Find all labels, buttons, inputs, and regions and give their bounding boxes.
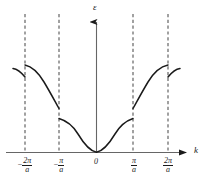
fraction-denominator: a <box>25 166 29 174</box>
band-curve-3-left-fragment <box>13 69 25 78</box>
band-structure-figure: ε k − 2π a − π a 0 π a 2π a <box>0 0 207 186</box>
axes <box>6 22 186 153</box>
fraction-minus-pi-over-a: π a <box>58 157 64 174</box>
fraction-denominator: a <box>166 166 170 174</box>
fraction-two-pi-over-a: 2π a <box>163 157 173 174</box>
band-curve-3-right-fragment <box>168 69 180 78</box>
tick-label-pi-over-a: π a <box>122 157 146 174</box>
band-curve-2-left <box>25 65 59 109</box>
tick-label-two-pi-over-a: 2π a <box>155 157 181 174</box>
fraction-denominator: a <box>132 166 136 174</box>
tick-label-minus-pi-over-a: − π a <box>45 157 73 174</box>
fraction-denominator: a <box>59 166 63 174</box>
fraction-minus-two-pi-over-a: 2π a <box>22 157 32 174</box>
x-axis-label-k: k <box>194 146 198 155</box>
tick-label-zero: 0 <box>94 157 98 166</box>
tick-sign: − <box>18 161 23 169</box>
fraction-pi-over-a: π a <box>131 157 137 174</box>
band-curve-2-right <box>133 65 168 109</box>
tick-sign: − <box>54 161 59 169</box>
tick-label-minus-two-pi-over-a: − 2π a <box>9 157 41 174</box>
y-axis-label-energy: ε <box>93 3 97 12</box>
